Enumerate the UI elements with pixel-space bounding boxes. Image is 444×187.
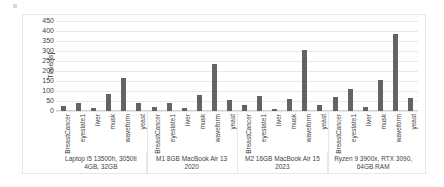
bar-slot: [177, 21, 192, 111]
bar-slot: [101, 21, 116, 111]
category-label-slot: BreastCancer: [237, 112, 252, 156]
bar-slot: [343, 21, 358, 111]
y-tick-label: 150: [42, 77, 54, 84]
group-separator: [237, 112, 238, 174]
decorative-mark: [13, 4, 17, 8]
bar: [121, 78, 126, 110]
category-label: waveform: [305, 114, 312, 142]
y-tick-label: 200: [42, 67, 54, 74]
bar-slot: [71, 21, 86, 111]
machine-label: Ryzen 9 3900x, RTX 3090, 64GB RAM: [327, 152, 418, 174]
bar: [242, 105, 247, 111]
bar-slot: [358, 21, 373, 111]
category-label: yeast: [320, 114, 327, 130]
bar-group: [237, 21, 328, 111]
category-label: yeast: [229, 114, 236, 130]
category-label-slot: yeast: [131, 112, 146, 156]
bar-slot: [162, 21, 177, 111]
y-tick-label: 0: [50, 107, 54, 114]
category-label-slot: eyestate1: [162, 112, 177, 156]
bar: [61, 106, 66, 110]
bar: [91, 108, 96, 110]
category-label-slot: waveform: [116, 112, 131, 156]
category-label-slot: yeast: [222, 112, 237, 156]
category-label: waveform: [214, 114, 221, 142]
bar-slot: [56, 21, 71, 111]
bar-groups: [56, 21, 418, 111]
bar: [106, 94, 111, 111]
bar: [287, 99, 292, 111]
category-label-slot: musk: [192, 112, 207, 156]
category-label: eyestate1: [169, 114, 176, 142]
category-label: BreastCancer: [64, 114, 71, 154]
category-label-slot: musk: [101, 112, 116, 156]
category-label-slot: BreastCancer: [56, 112, 71, 156]
machine-label: M1 8GB MacBook Air 13 2020: [146, 152, 237, 174]
category-label: eyestate1: [260, 114, 267, 142]
bar: [272, 109, 277, 110]
category-label: waveform: [124, 114, 131, 142]
category-label: liver: [365, 114, 372, 126]
category-label: BreastCancer: [245, 114, 252, 154]
machine-label: M2 16GB MacBook Air 15 2023: [237, 152, 328, 174]
plot-area: [56, 21, 418, 111]
category-label: yeast: [410, 114, 417, 130]
bar: [76, 103, 81, 110]
machine-label: Laptop i5 13500h, 3050ti 4GB, 32GB: [56, 152, 146, 174]
group-separator: [328, 112, 329, 174]
bar-slot: [328, 21, 343, 111]
category-label: BreastCancer: [154, 114, 161, 154]
y-tick-label: 300: [42, 47, 54, 54]
bar-slot: [252, 21, 267, 111]
bar: [348, 89, 353, 111]
category-label-slot: yeast: [403, 112, 418, 156]
category-label-group: BreastCancereyestate1livermuskwaveformye…: [328, 112, 419, 156]
bar: [212, 64, 217, 110]
category-label-slot: musk: [282, 112, 297, 156]
category-label-slot: waveform: [388, 112, 403, 156]
bar-slot: [312, 21, 327, 111]
category-label-slot: waveform: [297, 112, 312, 156]
y-tick-label: 50: [46, 97, 54, 104]
category-label-slot: musk: [373, 112, 388, 156]
category-label: musk: [199, 114, 206, 130]
bar-slot: [222, 21, 237, 111]
bar: [408, 98, 413, 110]
category-label-slot: eyestate1: [252, 112, 267, 156]
bar-slot: [237, 21, 252, 111]
bar: [333, 97, 338, 111]
bar-slot: [192, 21, 207, 111]
bar: [197, 95, 202, 111]
y-tick-label: 400: [42, 27, 54, 34]
bar: [152, 107, 157, 111]
bar: [363, 107, 368, 111]
category-label-group: BreastCancereyestate1livermuskwaveformye…: [56, 112, 147, 156]
bar: [378, 80, 383, 111]
bar-slot: [267, 21, 282, 111]
y-tick-label: 100: [42, 87, 54, 94]
bar: [317, 105, 322, 111]
category-label: liver: [184, 114, 191, 126]
category-label-slot: yeast: [312, 112, 327, 156]
category-label: eyestate1: [350, 114, 357, 142]
group-separator: [147, 112, 148, 174]
bar: [136, 103, 141, 111]
y-tick-label: 250: [42, 57, 54, 64]
bar-slot: [403, 21, 418, 111]
bar-slot: [86, 21, 101, 111]
bar: [227, 100, 232, 111]
category-label-slot: BreastCancer: [147, 112, 162, 156]
category-label: musk: [109, 114, 116, 130]
category-label-slot: liver: [358, 112, 373, 156]
category-label-slot: eyestate1: [343, 112, 358, 156]
category-label-slot: eyestate1: [71, 112, 86, 156]
bar: [393, 34, 398, 110]
bar: [182, 108, 187, 110]
category-label-slot: liver: [177, 112, 192, 156]
bar: [257, 96, 262, 111]
category-label: liver: [275, 114, 282, 126]
y-tick-label: 450: [42, 17, 54, 24]
category-label-slot: waveform: [207, 112, 222, 156]
bar-slot: [207, 21, 222, 111]
y-axis-tick-labels: 450400350300250200150100500: [30, 17, 54, 113]
